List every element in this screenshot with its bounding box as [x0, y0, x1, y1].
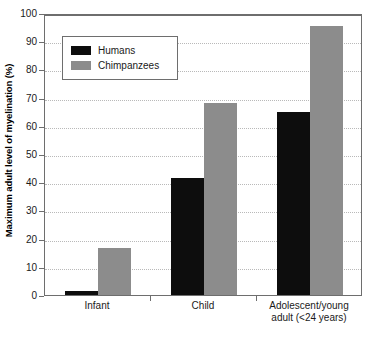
bar-humans-1: [171, 178, 204, 295]
bar-humans-2: [277, 112, 310, 295]
legend-label-chimpanzees: Chimpanzees: [98, 61, 159, 71]
y-tick-mark-50: [39, 155, 44, 156]
bar-chimpanzees-2: [310, 26, 343, 295]
y-tick-mark-70: [39, 99, 44, 100]
y-tick-label-70: 70: [0, 94, 44, 104]
myelination-bar-chart: Maximum adult level of myelination (%) 0…: [0, 0, 372, 337]
y-tick-label-20: 20: [0, 235, 44, 245]
legend-item-humans: Humans: [71, 43, 169, 58]
bar-humans-0: [65, 291, 98, 295]
y-tick-mark-0: [39, 296, 44, 297]
y-tick-mark-10: [39, 268, 44, 269]
x-category-label-0: Infant: [44, 300, 150, 312]
y-tick-label-40: 40: [0, 178, 44, 188]
y-tick-mark-100: [39, 14, 44, 15]
y-tick-label-0: 0: [0, 291, 44, 301]
x-group-separator-1: [150, 296, 151, 301]
bar-chimpanzees-0: [98, 248, 131, 295]
bar-chimpanzees-1: [204, 103, 237, 295]
gridline-100: [45, 15, 361, 16]
y-tick-mark-40: [39, 183, 44, 184]
y-tick-mark-60: [39, 127, 44, 128]
y-tick-label-60: 60: [0, 122, 44, 132]
chart-legend: Humans Chimpanzees: [62, 36, 178, 80]
y-tick-mark-20: [39, 240, 44, 241]
y-tick-label-90: 90: [0, 37, 44, 47]
y-tick-label-80: 80: [0, 65, 44, 75]
y-tick-mark-30: [39, 211, 44, 212]
y-tick-label-100: 100: [0, 9, 44, 19]
y-tick-label-30: 30: [0, 206, 44, 216]
legend-label-humans: Humans: [98, 46, 135, 56]
x-cat-label-line: Child: [192, 300, 215, 311]
legend-swatch-humans: [71, 46, 91, 55]
x-cat-label-line: Infant: [84, 300, 109, 311]
x-category-label-2: Adolescent/youngadult (<24 years): [256, 300, 362, 324]
x-category-label-1: Child: [150, 300, 256, 312]
y-tick-label-50: 50: [0, 150, 44, 160]
y-tick-mark-80: [39, 70, 44, 71]
y-tick-label-10: 10: [0, 263, 44, 273]
y-tick-mark-90: [39, 42, 44, 43]
x-cat-label-line: adult (<24 years): [256, 312, 362, 324]
x-cat-label-line: Adolescent/young: [269, 300, 349, 311]
legend-item-chimpanzees: Chimpanzees: [71, 58, 169, 73]
x-group-separator-2: [256, 296, 257, 301]
legend-swatch-chimpanzees: [71, 61, 91, 70]
